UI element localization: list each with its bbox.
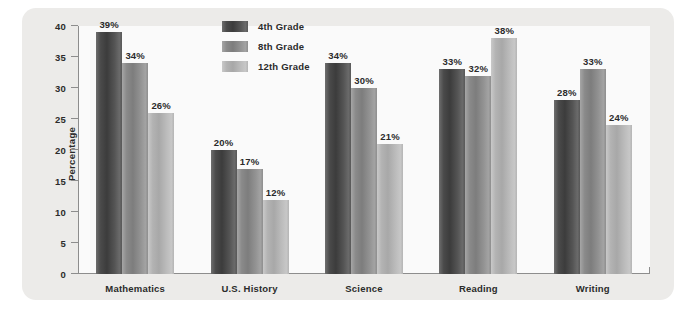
bar-group: 34%30%21%Science bbox=[307, 26, 421, 274]
bar[interactable]: 28% bbox=[554, 100, 580, 274]
bar-value-label: 32% bbox=[469, 63, 489, 74]
legend-item[interactable]: 8th Grade bbox=[222, 36, 310, 56]
y-axis-tick-label: 25 bbox=[55, 113, 66, 124]
bar[interactable]: 34% bbox=[325, 63, 351, 274]
bar[interactable]: 34% bbox=[122, 63, 148, 274]
bar-value-label: 33% bbox=[583, 56, 603, 67]
bar-value-label: 30% bbox=[354, 75, 374, 86]
legend-label: 8th Grade bbox=[258, 41, 304, 52]
bar-value-label: 39% bbox=[99, 19, 119, 30]
x-axis-category-label: Writing bbox=[536, 283, 650, 294]
bar-value-label: 20% bbox=[214, 137, 234, 148]
y-axis-tick: 5 bbox=[71, 242, 78, 243]
y-axis-tick: 0 bbox=[71, 273, 78, 274]
x-axis-category-label: Science bbox=[307, 283, 421, 294]
bar-value-label: 21% bbox=[380, 131, 400, 142]
bar-fill bbox=[122, 63, 148, 274]
y-axis-title: Percentage bbox=[66, 127, 77, 181]
legend-item[interactable]: 12th Grade bbox=[222, 56, 310, 76]
legend-swatch bbox=[222, 41, 248, 52]
bar-value-label: 38% bbox=[495, 25, 515, 36]
bar-fill bbox=[351, 88, 377, 274]
bar-fill bbox=[263, 200, 289, 274]
legend-label: 12th Grade bbox=[258, 61, 310, 72]
bar[interactable]: 24% bbox=[606, 125, 632, 274]
bar-group: 28%33%24%Writing bbox=[536, 26, 650, 274]
bar-value-label: 34% bbox=[328, 50, 348, 61]
bar-fill bbox=[148, 113, 174, 274]
bar-fill bbox=[580, 69, 606, 274]
bar[interactable]: 32% bbox=[465, 76, 491, 274]
bar[interactable]: 20% bbox=[211, 150, 237, 274]
bar-fill bbox=[96, 32, 122, 274]
bar-fill bbox=[377, 144, 403, 274]
y-axis-tick-label: 20 bbox=[55, 144, 66, 155]
bar-fill bbox=[491, 38, 517, 274]
y-axis-tick-label: 35 bbox=[55, 51, 66, 62]
bar[interactable]: 21% bbox=[377, 144, 403, 274]
bar-fill bbox=[325, 63, 351, 274]
chart-panel: Percentage 0510152025303540 39%34%26%Mat… bbox=[22, 8, 674, 300]
bar[interactable]: 12% bbox=[263, 200, 289, 274]
bar[interactable]: 30% bbox=[351, 88, 377, 274]
y-axis-tick-label: 0 bbox=[61, 268, 66, 279]
bar-value-label: 24% bbox=[609, 112, 629, 123]
bar[interactable]: 17% bbox=[237, 169, 263, 274]
y-axis-tick: 20 bbox=[71, 149, 78, 150]
bar-fill bbox=[554, 100, 580, 274]
bar-value-label: 17% bbox=[240, 156, 260, 167]
y-axis-tick: 25 bbox=[71, 118, 78, 119]
y-axis-tick-label: 15 bbox=[55, 175, 66, 186]
bar-value-label: 26% bbox=[151, 100, 171, 111]
y-axis-tick-label: 40 bbox=[55, 20, 66, 31]
bar[interactable]: 39% bbox=[96, 32, 122, 274]
bar-value-label: 33% bbox=[443, 56, 463, 67]
y-axis-tick-label: 10 bbox=[55, 206, 66, 217]
y-axis-tick: 40 bbox=[71, 25, 78, 26]
bar-value-label: 28% bbox=[557, 87, 577, 98]
legend-item[interactable]: 4th Grade bbox=[222, 16, 310, 36]
y-axis-tick: 35 bbox=[71, 56, 78, 57]
chart-legend: 4th Grade8th Grade12th Grade bbox=[222, 16, 310, 76]
x-axis-category-label: U.S. History bbox=[192, 283, 306, 294]
bar-group: 39%34%26%Mathematics bbox=[78, 26, 192, 274]
bar-value-label: 12% bbox=[266, 187, 286, 198]
bar-fill bbox=[211, 150, 237, 274]
bar-fill bbox=[465, 76, 491, 274]
legend-label: 4th Grade bbox=[258, 21, 304, 32]
x-axis-category-label: Mathematics bbox=[78, 283, 192, 294]
bar-value-label: 34% bbox=[125, 50, 145, 61]
y-axis-tick: 10 bbox=[71, 211, 78, 212]
bar[interactable]: 38% bbox=[491, 38, 517, 274]
legend-swatch bbox=[222, 61, 248, 72]
bar-group: 33%32%38%Reading bbox=[421, 26, 535, 274]
plot-area-wrapper: 0510152025303540 39%34%26%Mathematics20%… bbox=[78, 26, 650, 274]
bar[interactable]: 26% bbox=[148, 113, 174, 274]
bar[interactable]: 33% bbox=[580, 69, 606, 274]
y-axis-tick-label: 5 bbox=[61, 237, 66, 248]
y-axis-tick-label: 30 bbox=[55, 82, 66, 93]
bar-fill bbox=[237, 169, 263, 274]
bar[interactable]: 33% bbox=[439, 69, 465, 274]
legend-swatch bbox=[222, 21, 248, 32]
x-axis-category-label: Reading bbox=[421, 283, 535, 294]
bar-fill bbox=[439, 69, 465, 274]
y-axis-tick: 30 bbox=[71, 87, 78, 88]
y-axis-tick: 15 bbox=[71, 180, 78, 181]
bar-fill bbox=[606, 125, 632, 274]
